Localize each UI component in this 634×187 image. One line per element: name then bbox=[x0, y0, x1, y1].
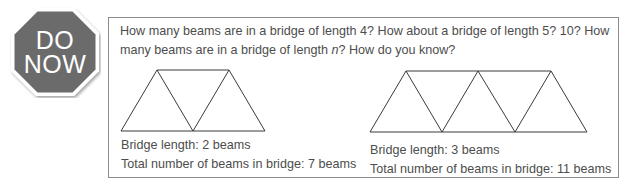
bridge-2-total-caption: Total number of beams in bridge: 11 beam… bbox=[370, 160, 611, 179]
badge-line-1: DO bbox=[36, 28, 75, 52]
badge-line-2: NOW bbox=[24, 52, 87, 76]
bridge-1-total-caption: Total number of beams in bridge: 7 beams bbox=[121, 155, 356, 174]
bridge-2-length-caption: Bridge length: 3 beams bbox=[370, 141, 500, 160]
problem-prompt: How many beams are in a bridge of length… bbox=[120, 22, 615, 60]
bridge-1-length-caption: Bridge length: 2 beams bbox=[121, 136, 251, 155]
prompt-text-2: ? How do you know? bbox=[338, 43, 455, 57]
bridge-diagram-length-3 bbox=[367, 67, 591, 137]
bridge-diagram-length-2 bbox=[118, 66, 270, 136]
do-now-badge: DO NOW bbox=[9, 6, 101, 98]
